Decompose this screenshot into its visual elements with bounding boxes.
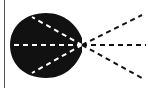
ray-outside-lower — [82, 45, 142, 78]
diagram-frame — [0, 0, 148, 88]
ray-outside-upper — [82, 15, 142, 45]
lens-ray-diagram — [0, 0, 148, 88]
outside-rays — [82, 15, 146, 78]
